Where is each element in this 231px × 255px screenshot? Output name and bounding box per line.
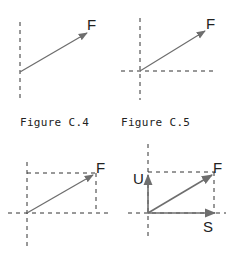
force-label: F — [213, 159, 222, 176]
force-vector-arrow — [20, 33, 87, 72]
figure-c5-caption: Figure C.5 — [121, 116, 190, 129]
force-label: F — [96, 159, 105, 176]
figure-c4: F — [20, 16, 96, 100]
force-label: F — [87, 16, 96, 33]
force-vector-arrow — [148, 175, 212, 213]
force-vector-arrow — [140, 31, 205, 71]
figure-c6: F — [8, 159, 108, 248]
force-label: F — [206, 15, 215, 32]
force-vector-arrow — [27, 175, 93, 213]
horizontal-component-label: S — [203, 218, 213, 235]
figure-c4-caption: Figure C.4 — [20, 116, 89, 129]
figure-c5: F — [121, 15, 216, 100]
vertical-component-label: U — [133, 170, 144, 187]
figure-c7: F U S — [128, 144, 226, 236]
